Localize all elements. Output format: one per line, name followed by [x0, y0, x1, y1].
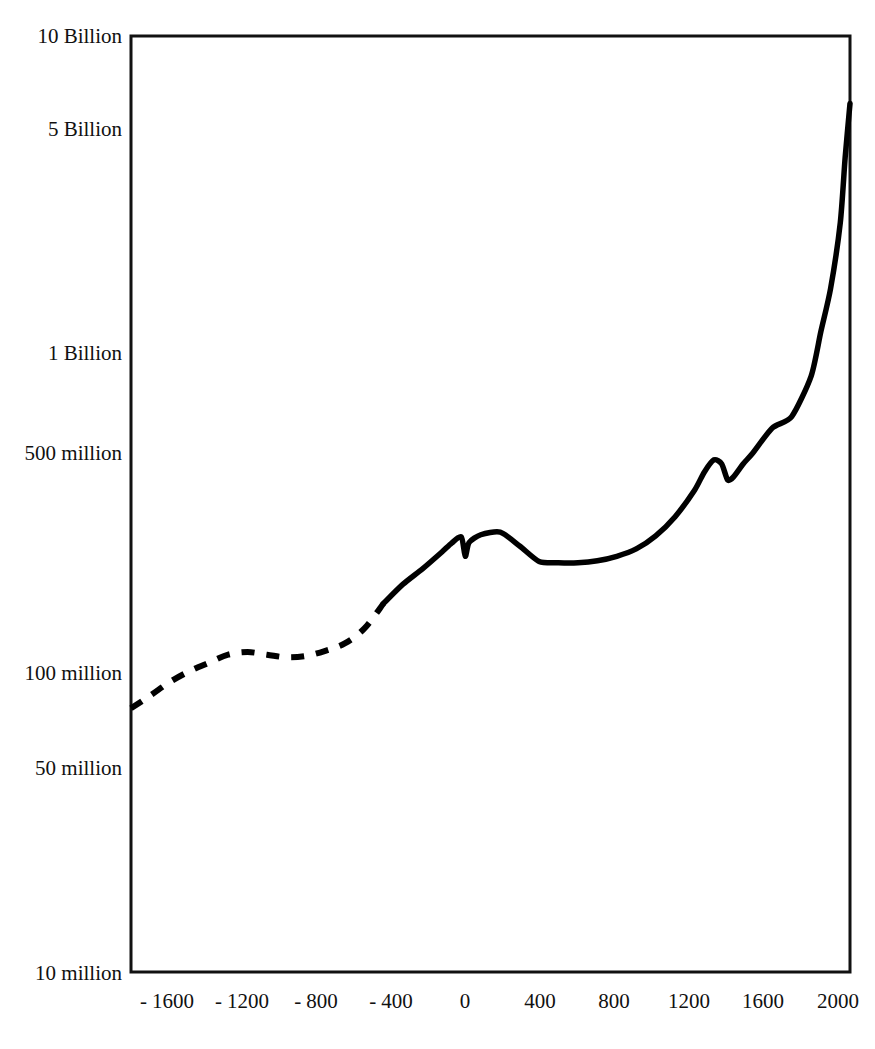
- x-tick-label-minus-1200: - 1200: [215, 989, 269, 1013]
- x-tick-label-minus-800: - 800: [294, 989, 338, 1013]
- x-tick-label-2000: 2000: [817, 989, 859, 1013]
- x-tick-label-0: 0: [460, 989, 471, 1013]
- x-tick-label-400: 400: [524, 989, 556, 1013]
- y-tick-label-1-billion: 1 Billion: [48, 341, 123, 365]
- y-tick-label-10-billion: 10 Billion: [37, 24, 122, 48]
- y-tick-label-500-million: 500 million: [25, 441, 123, 465]
- x-tick-label-1600: 1600: [742, 989, 784, 1013]
- x-tick-label-800: 800: [598, 989, 630, 1013]
- y-tick-label-100-million: 100 million: [25, 661, 123, 685]
- population-line-chart: 10 Billion 5 Billion 1 Billion 500 milli…: [0, 0, 875, 1049]
- x-tick-label-1200: 1200: [668, 989, 710, 1013]
- x-tick-label-minus-400: - 400: [369, 989, 413, 1013]
- chart-page: 10 Billion 5 Billion 1 Billion 500 milli…: [0, 0, 875, 1049]
- y-tick-label-5-billion: 5 Billion: [48, 117, 123, 141]
- x-tick-label-minus-1600: - 1600: [140, 989, 194, 1013]
- y-tick-label-50-million: 50 million: [35, 756, 122, 780]
- y-tick-label-10-million: 10 million: [35, 961, 122, 985]
